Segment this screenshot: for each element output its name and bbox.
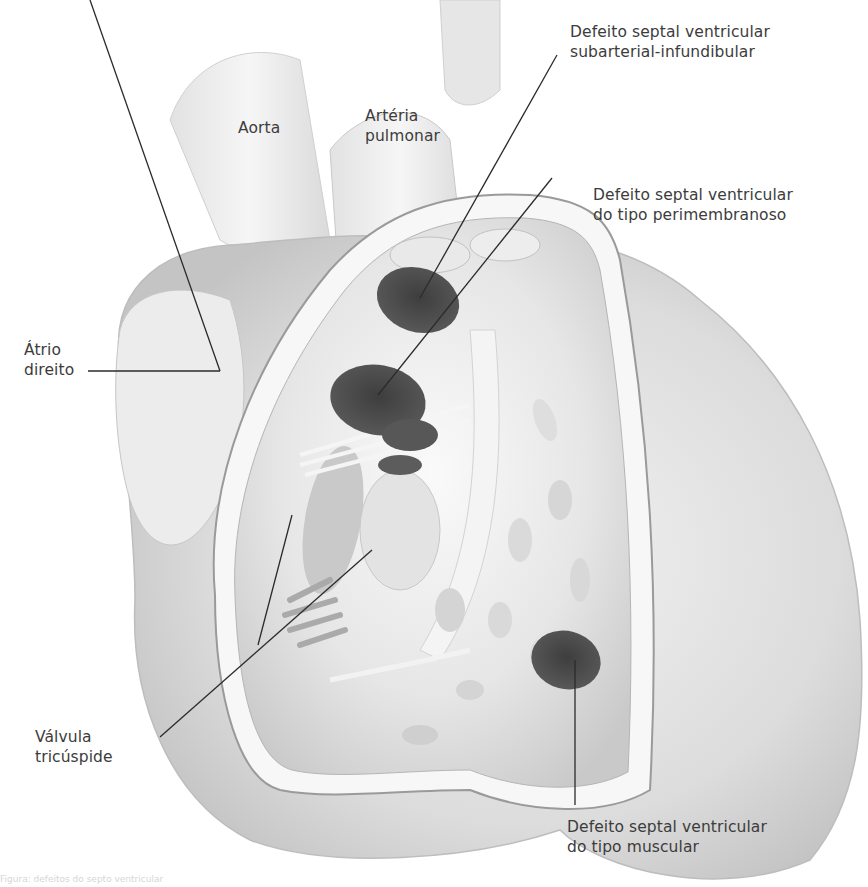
label-valvula-tricuspide-line2: tricúspide — [35, 747, 113, 767]
label-dsv-perimembranoso: Defeito septal ventricular do tipo perim… — [593, 185, 793, 225]
label-dsv-muscular-line2: do tipo muscular — [567, 837, 767, 857]
label-atrio-direito-line1: Átrio — [24, 340, 74, 360]
label-dsv-muscular-line1: Defeito septal ventricular — [567, 817, 767, 837]
label-atrio-direito-line2: direito — [24, 360, 74, 380]
label-dsv-muscular: Defeito septal ventricular do tipo muscu… — [567, 817, 767, 857]
figure-caption-cropped: Figura: defeitos do septo ventricular — [0, 874, 163, 884]
label-dsv-subarterial-line2: subarterial-infundibular — [570, 42, 770, 62]
label-dsv-subarterial: Defeito septal ventricular subarterial-i… — [570, 22, 770, 62]
label-arteria-pulmonar-line1: Artéria — [365, 106, 440, 126]
label-dsv-subarterial-line1: Defeito septal ventricular — [570, 22, 770, 42]
label-aorta-line1: Aorta — [238, 118, 280, 138]
label-arteria-pulmonar-line2: pulmonar — [365, 126, 440, 146]
label-valvula-tricuspide-line1: Válvula — [35, 727, 113, 747]
label-atrio-direito: Átrio direito — [24, 340, 74, 380]
label-dsv-perimembranoso-line1: Defeito septal ventricular — [593, 185, 793, 205]
label-arteria-pulmonar: Artéria pulmonar — [365, 106, 440, 146]
label-aorta: Aorta — [238, 118, 280, 138]
aorta-vessel — [170, 53, 330, 256]
label-valvula-tricuspide: Válvula tricúspide — [35, 727, 113, 767]
label-dsv-perimembranoso-line2: do tipo perimembranoso — [593, 205, 793, 225]
